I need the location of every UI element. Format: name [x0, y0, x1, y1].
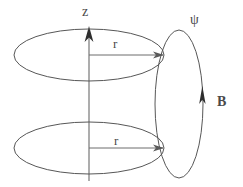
physics-diagram: z ψ B r r: [0, 0, 243, 187]
radius-label-bottom: r: [114, 134, 118, 147]
arrow-up-icon-b: [199, 86, 205, 104]
psi-label: ψ: [190, 13, 199, 27]
z-axis-label: z: [82, 5, 88, 19]
b-field-label: B: [217, 95, 226, 109]
diagram-canvas: [0, 0, 243, 187]
radius-label-top: r: [113, 37, 117, 50]
flux-surface-loop: [155, 30, 203, 178]
